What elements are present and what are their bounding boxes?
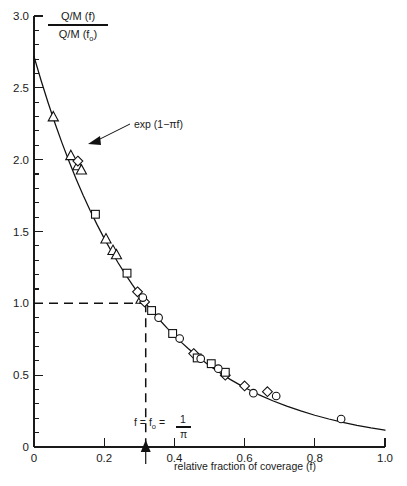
y-axis-tick-labels: 00.51.01.52.02.53.0 <box>13 10 29 453</box>
data-marker-circle <box>337 415 345 423</box>
data-marker-circle <box>250 389 258 397</box>
f0-axis-arrow-marker <box>141 440 151 452</box>
y-tick-label: 3.0 <box>13 10 29 22</box>
x-tick-label: 0.2 <box>96 452 112 464</box>
y-tick-label: 1.0 <box>13 297 29 309</box>
f0-annotation-label: f = fo = <box>134 416 165 431</box>
exp-curve <box>34 57 385 431</box>
reference-guides <box>34 303 146 443</box>
data-markers-layer <box>48 111 345 422</box>
f0-annotation-group: f = fo = 1 π <box>134 413 191 464</box>
data-marker-square <box>221 368 229 376</box>
f0-fraction-numerator: 1 <box>180 413 186 425</box>
x-tick-label: 1.0 <box>377 452 393 464</box>
coverage-plot-svg: 00.51.01.52.02.53.0 00.20.40.60.81.0 Q/M… <box>0 0 407 486</box>
data-marker-diamond <box>263 387 273 397</box>
data-marker-square <box>123 269 131 277</box>
data-marker-triangle <box>66 150 76 159</box>
y-axis-title-group: Q/M (f) Q/M (fo) <box>48 10 108 43</box>
y-tick-label: 2.0 <box>13 154 29 166</box>
data-marker-square <box>169 330 177 338</box>
plot-axes <box>34 16 385 447</box>
data-marker-square <box>92 210 100 218</box>
data-marker-circle <box>139 294 147 302</box>
y-axis-title-numerator: Q/M (f) <box>61 10 95 22</box>
data-marker-square <box>207 360 215 368</box>
y-tick-label: 1.5 <box>13 226 29 238</box>
y-tick-label: 2.5 <box>13 82 29 94</box>
curve-annotation-group: exp (1−πf) <box>88 118 183 145</box>
f0-fraction-denominator: π <box>180 428 187 440</box>
data-marker-triangle <box>48 111 58 120</box>
curve-annotation-leader <box>98 124 130 140</box>
x-axis-title: relative fraction of coverage (f) <box>174 460 316 472</box>
y-axis-title-denominator: Q/M (fo) <box>59 28 97 43</box>
curve-annotation-label: exp (1−πf) <box>134 118 183 130</box>
data-marker-circle <box>155 314 163 322</box>
chart-figure: 00.51.01.52.02.53.0 00.20.40.60.81.0 Q/M… <box>0 0 407 486</box>
x-tick-label: 0 <box>31 452 37 464</box>
y-tick-label: 0 <box>23 441 29 453</box>
data-marker-circle <box>197 355 205 363</box>
data-marker-circle <box>214 365 222 373</box>
data-marker-circle <box>176 335 184 343</box>
data-marker-circle <box>272 392 280 400</box>
data-marker-square <box>148 307 156 315</box>
curve-annotation-arrowhead <box>88 136 101 145</box>
y-tick-label: 0.5 <box>13 369 29 381</box>
